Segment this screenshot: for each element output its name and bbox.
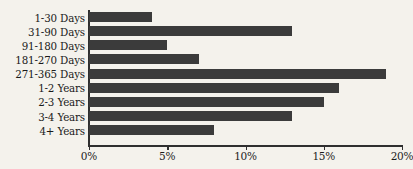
x-axis-tick-label: 5% [159,150,175,162]
bar [89,40,167,50]
category-label: 1-30 Days [34,13,85,23]
bar [89,26,292,36]
bar [89,111,292,121]
bar [89,54,199,64]
category-label: 31-90 Days [28,27,85,37]
category-label: 1-2 Years [38,83,85,93]
category-label: 2-3 Years [38,97,85,107]
bar [89,83,339,93]
x-axis-tick-label: 15% [312,150,335,162]
category-label: 91-180 Days [22,41,85,51]
category-label: 3-4 Years [38,112,85,122]
bar [89,125,214,135]
bar [89,12,152,22]
bar [89,97,324,107]
x-axis-tick-label: 10% [234,150,257,162]
x-axis-tick-label: 0% [81,150,97,162]
x-axis-tick-label: 20% [391,150,413,162]
category-label: 4+ Years [39,126,85,136]
category-label: 271-365 Days [15,69,85,79]
category-label: 181-270 Days [15,55,85,65]
bar [89,69,386,79]
